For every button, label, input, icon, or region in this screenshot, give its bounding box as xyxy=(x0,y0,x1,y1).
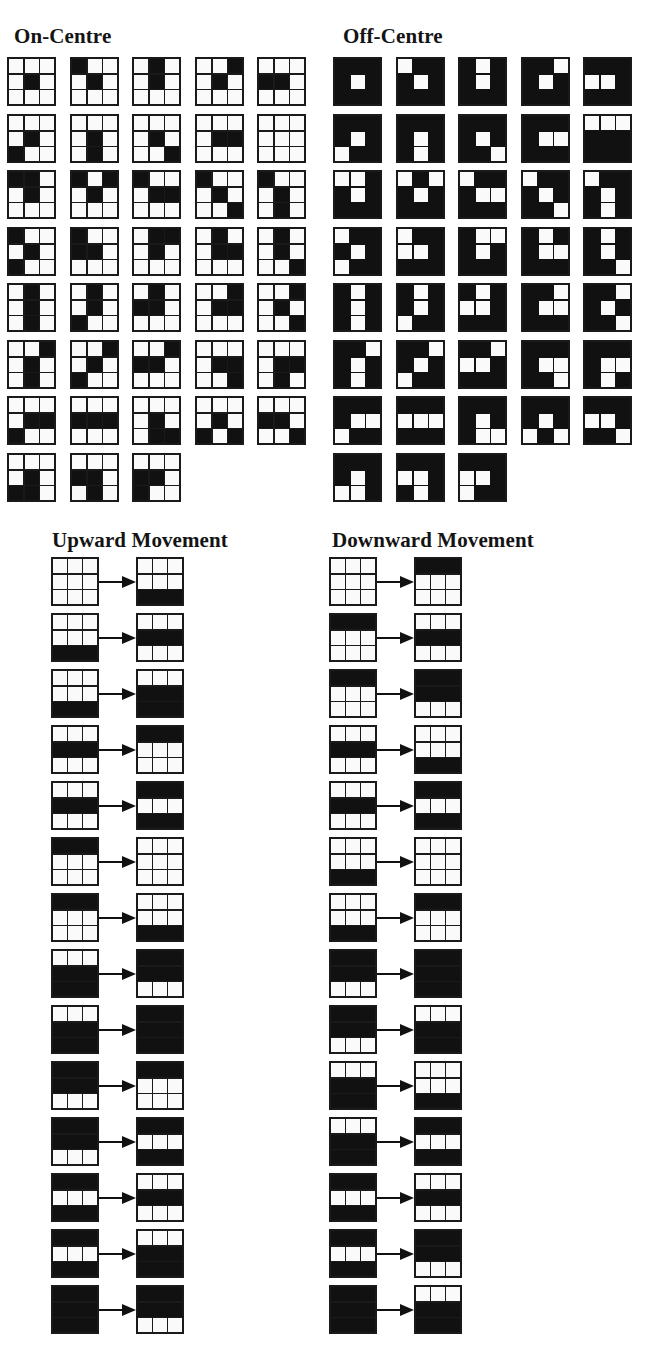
grid-cell xyxy=(290,316,304,330)
grid-cell xyxy=(165,373,179,387)
grid-cell xyxy=(83,1023,97,1037)
grid-cell xyxy=(331,1247,345,1261)
grid-cell xyxy=(523,90,537,104)
grid-cell xyxy=(68,575,82,589)
grid-cell xyxy=(585,132,599,146)
grid-cell xyxy=(585,342,599,356)
grid-cell xyxy=(83,967,97,981)
grid-cell xyxy=(429,301,443,315)
grid-cell xyxy=(331,1023,345,1037)
grid-cell xyxy=(103,132,117,146)
grid-cell xyxy=(168,1135,182,1149)
grid-cell xyxy=(554,429,568,443)
grid-cell xyxy=(361,1303,375,1317)
grid-cell xyxy=(523,245,537,259)
grid-cell xyxy=(523,188,537,202)
grid-cell xyxy=(335,75,349,89)
grid-cell xyxy=(398,229,412,243)
grid-cell xyxy=(213,285,227,299)
grid-cell xyxy=(83,559,97,573)
grid-cell xyxy=(331,839,345,853)
grid-cell xyxy=(429,486,443,500)
on-centre-pattern-grid xyxy=(7,170,56,219)
grid-cell xyxy=(539,132,553,146)
grid-cell xyxy=(476,203,490,217)
grid-cell xyxy=(554,132,568,146)
grid-cell xyxy=(416,1119,430,1133)
grid-cell xyxy=(398,188,412,202)
grid-cell xyxy=(361,1231,375,1245)
grid-cell xyxy=(351,203,365,217)
off-centre-pattern-grid xyxy=(333,114,382,163)
upward-to-grid xyxy=(136,725,184,774)
grid-cell xyxy=(228,358,242,372)
grid-cell xyxy=(431,1150,445,1164)
grid-cell xyxy=(346,1094,360,1108)
grid-row xyxy=(331,870,375,884)
grid-cell xyxy=(197,147,211,161)
grid-cell xyxy=(523,116,537,130)
grid-cell xyxy=(197,229,211,243)
grid-cell xyxy=(25,147,39,161)
grid-cell xyxy=(138,1303,152,1317)
grid-cell xyxy=(431,814,445,828)
upward-to-grid xyxy=(136,1005,184,1054)
grid-cell xyxy=(103,75,117,89)
grid-cell xyxy=(150,373,164,387)
grid-cell xyxy=(476,245,490,259)
grid-cell xyxy=(165,301,179,315)
grid-cell xyxy=(213,116,227,130)
grid-cell xyxy=(134,132,148,146)
grid-cell xyxy=(138,1038,152,1052)
grid-cell xyxy=(150,172,164,186)
grid-cell xyxy=(351,188,365,202)
downward-to-grid xyxy=(414,1285,462,1334)
grid-cell xyxy=(523,260,537,274)
grid-cell xyxy=(476,172,490,186)
grid-cell xyxy=(228,316,242,330)
grid-cell xyxy=(150,486,164,500)
grid-row xyxy=(416,671,460,685)
grid-cell xyxy=(331,1063,345,1077)
on-centre-pattern-grid xyxy=(7,283,56,332)
grid-cell xyxy=(83,895,97,909)
grid-row xyxy=(331,1119,375,1133)
grid-cell xyxy=(53,1303,67,1317)
grid-cell xyxy=(83,1135,97,1149)
grid-cell xyxy=(491,471,505,485)
grid-cell xyxy=(138,1135,152,1149)
grid-cell xyxy=(9,260,23,274)
grid-cell xyxy=(361,559,375,573)
grid-cell xyxy=(150,90,164,104)
grid-cell xyxy=(68,727,82,741)
grid-cell xyxy=(523,203,537,217)
right-arrow-icon xyxy=(99,912,136,924)
grid-row xyxy=(416,646,460,660)
grid-row xyxy=(331,727,375,741)
grid-cell xyxy=(228,188,242,202)
grid-row xyxy=(53,783,97,797)
grid-cell xyxy=(275,316,289,330)
grid-cell xyxy=(88,414,102,428)
grid-cell xyxy=(165,342,179,356)
grid-cell xyxy=(398,59,412,73)
grid-cell xyxy=(168,758,182,772)
grid-cell xyxy=(68,1119,82,1133)
right-arrow-icon xyxy=(377,576,414,588)
off-centre-pattern-grid xyxy=(583,396,632,445)
grid-cell xyxy=(446,1079,460,1093)
grid-cell xyxy=(72,301,86,315)
grid-cell xyxy=(460,301,474,315)
grid-cell xyxy=(361,743,375,757)
grid-cell xyxy=(585,358,599,372)
grid-cell xyxy=(331,1287,345,1301)
grid-cell xyxy=(366,132,380,146)
grid-cell xyxy=(346,615,360,629)
grid-cell xyxy=(554,398,568,412)
off-centre-pattern-grid xyxy=(458,283,507,332)
grid-cell xyxy=(138,967,152,981)
grid-cell xyxy=(346,1079,360,1093)
grid-cell xyxy=(165,486,179,500)
grid-cell xyxy=(259,59,273,73)
grid-cell xyxy=(40,373,54,387)
